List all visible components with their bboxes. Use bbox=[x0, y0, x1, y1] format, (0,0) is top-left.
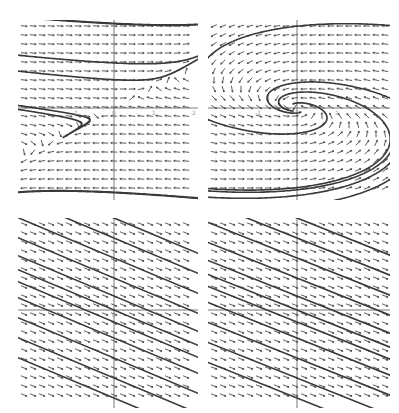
axes bbox=[18, 218, 198, 408]
direction-arrows bbox=[21, 25, 189, 189]
x-tick-label: 2 bbox=[192, 109, 196, 116]
solution-curves bbox=[18, 20, 198, 198]
solution-curves bbox=[208, 218, 390, 408]
x-tick-label: -1 bbox=[72, 109, 78, 116]
x-tick-label: 0 bbox=[112, 109, 116, 116]
direction-arrows bbox=[211, 25, 388, 190]
direction-field-plot: -101 bbox=[208, 20, 390, 200]
panel-bottom-left: 0 bbox=[18, 218, 198, 408]
solution-curves bbox=[18, 218, 198, 408]
x-tick-label: 1 bbox=[335, 109, 339, 116]
x-tick-label: 1 bbox=[152, 109, 156, 116]
x-tick-label: 0 bbox=[295, 109, 299, 116]
panel-bottom-right: 0 bbox=[208, 218, 390, 408]
panel-top-left: -1012 bbox=[18, 20, 198, 200]
panel-top-right: -101 bbox=[208, 20, 390, 200]
x-tick-label: 0 bbox=[112, 311, 116, 318]
x-tick-label: 0 bbox=[295, 311, 299, 318]
direction-field-plot: -1012 bbox=[18, 20, 198, 200]
x-tick-label: -1 bbox=[255, 109, 261, 116]
solution-curves bbox=[208, 24, 390, 200]
direction-field-plot: 0 bbox=[18, 218, 198, 408]
direction-field-plot: 0 bbox=[208, 218, 390, 408]
axes bbox=[208, 20, 390, 200]
